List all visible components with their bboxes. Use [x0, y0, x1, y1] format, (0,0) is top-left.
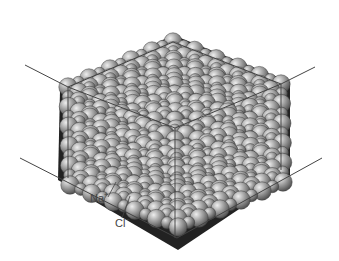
label-na-ion: Na+	[90, 191, 108, 204]
label-cl-ion: Cl−	[115, 216, 129, 229]
cell-edge-line	[281, 67, 315, 84]
nacl-lattice-diagram	[0, 0, 339, 261]
cell-edge-line	[25, 65, 68, 87]
